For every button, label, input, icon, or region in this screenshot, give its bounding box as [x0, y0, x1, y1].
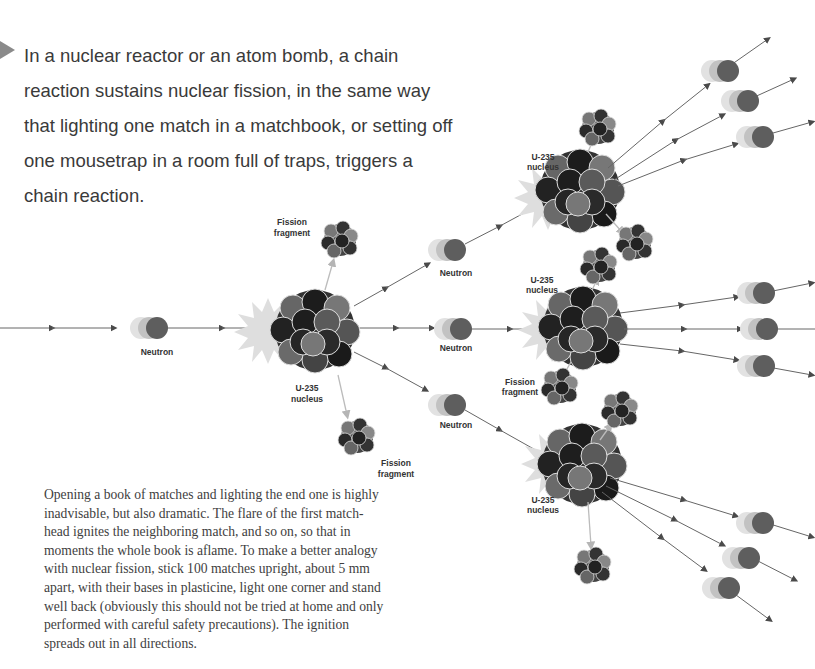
- fission-label-line2: fragment: [502, 387, 539, 397]
- secondary-neutron-paths: [354, 264, 432, 390]
- u235-label-line2: nucleus: [526, 285, 558, 295]
- neutron-label: Neutron: [440, 343, 473, 353]
- neutron-label: Neutron: [141, 347, 174, 357]
- neutron-icon: [428, 394, 466, 416]
- tertiary-neutron-paths: [602, 39, 815, 620]
- fission-fragment-icon: [338, 418, 375, 455]
- fission-fragment-icon: [601, 391, 638, 428]
- fission-fragment-icon: [574, 547, 611, 584]
- u235-label-line2: nucleus: [291, 394, 323, 404]
- fission-fragment-icon: [541, 368, 578, 405]
- u235-label-line1: U-235: [531, 152, 554, 162]
- neutron-icon: [736, 512, 774, 534]
- fission-fragment-icon: [616, 224, 653, 261]
- u235-nucleus-icon: [270, 289, 360, 373]
- neutron-icon: [702, 577, 740, 599]
- fission-fragment-icon: [579, 109, 616, 146]
- u235-label-line1: U-235: [295, 383, 318, 393]
- body-paragraph: Opening a book of matches and lighting t…: [44, 486, 384, 653]
- neutron-icon: [737, 355, 775, 377]
- neutron-icon: [736, 126, 774, 148]
- neutron-icon: [130, 317, 168, 339]
- u235-label-line1: U-235: [530, 275, 553, 285]
- neutron-icon: [428, 239, 466, 261]
- fission-fragment-icon: [580, 247, 617, 284]
- u235-label-line1: U-235: [531, 495, 554, 505]
- fission-label-line2: fragment: [274, 228, 311, 238]
- fission-fragment-icon: [321, 221, 358, 258]
- fission-label-line1: Fission: [381, 458, 411, 468]
- u235-label-line2: nucleus: [527, 505, 559, 515]
- neutron-icon: [722, 547, 760, 569]
- neutron-icon: [740, 318, 778, 340]
- fission-label-line1: Fission: [277, 217, 307, 227]
- fission-label-line1: Fission: [505, 377, 535, 387]
- neutron-icon: [701, 60, 739, 82]
- neutron-icon: [434, 318, 472, 340]
- neutron-icon: [737, 282, 775, 304]
- neutron-icon: [721, 90, 759, 112]
- neutron-label: Neutron: [440, 268, 473, 278]
- neutron-label: Neutron: [440, 420, 473, 430]
- u235-label-line2: nucleus: [527, 162, 559, 172]
- u235-nucleus-icon: [538, 286, 628, 370]
- fission-label-line2: fragment: [378, 469, 415, 479]
